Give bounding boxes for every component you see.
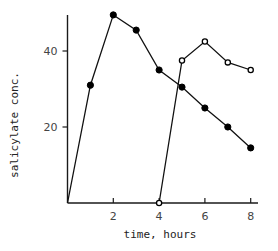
data-point bbox=[110, 12, 116, 18]
y-tick-label: 40 bbox=[44, 45, 58, 58]
data-point bbox=[179, 84, 185, 90]
data-point bbox=[202, 39, 207, 44]
y-axis-label: salicylate conc. bbox=[8, 72, 21, 178]
chart: 24682040 time, hours salicylate conc. bbox=[0, 0, 278, 251]
series-second-dose bbox=[157, 39, 254, 206]
x-tick-label: 4 bbox=[156, 210, 163, 223]
x-tick-label: 2 bbox=[110, 210, 117, 223]
data-point bbox=[87, 82, 93, 88]
series-layer bbox=[68, 12, 254, 206]
axes: 24682040 bbox=[44, 15, 259, 223]
series-line bbox=[68, 15, 251, 203]
x-axis-label: time, hours bbox=[124, 228, 197, 241]
data-point bbox=[225, 124, 231, 130]
data-point bbox=[133, 27, 139, 33]
data-point bbox=[248, 67, 253, 72]
y-tick-label: 20 bbox=[44, 121, 58, 134]
series-line bbox=[159, 42, 251, 204]
data-point bbox=[225, 60, 230, 65]
data-point bbox=[179, 58, 184, 63]
data-point bbox=[202, 105, 208, 111]
data-point bbox=[157, 200, 162, 205]
x-tick-label: 6 bbox=[201, 210, 208, 223]
data-point bbox=[156, 67, 162, 73]
data-point bbox=[248, 145, 254, 151]
x-tick-label: 8 bbox=[247, 210, 254, 223]
series-first-dose bbox=[68, 12, 254, 203]
